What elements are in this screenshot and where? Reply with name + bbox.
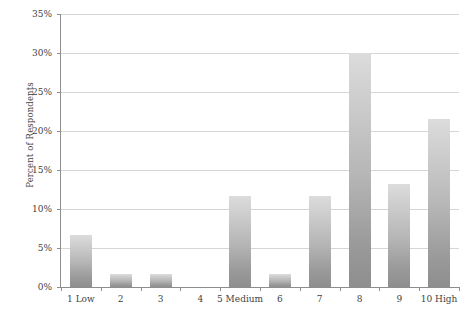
x-axis: 1 Low2345 Medium678910 High <box>61 287 459 323</box>
x-axis-tick <box>459 287 460 291</box>
y-axis-label: 35% <box>0 9 52 19</box>
bar <box>229 196 251 287</box>
bar-chart: Percent of Respondents 0%5%10%15%20%25%3… <box>0 0 466 323</box>
y-axis-label: 20% <box>0 126 52 136</box>
x-axis-label: 10 High <box>394 294 466 304</box>
x-axis-tick <box>340 287 341 291</box>
y-axis-label: 0% <box>0 282 52 292</box>
bar <box>349 53 371 287</box>
bar <box>388 184 410 287</box>
bar <box>150 274 172 287</box>
bars-group <box>61 14 459 287</box>
y-axis-label: 30% <box>0 48 52 58</box>
x-axis-tick <box>101 287 102 291</box>
y-axis-label: 5% <box>0 243 52 253</box>
x-axis-tick <box>220 287 221 291</box>
y-axis-label: 25% <box>0 87 52 97</box>
x-axis-tick <box>260 287 261 291</box>
bar <box>110 274 132 287</box>
x-axis-tick <box>141 287 142 291</box>
y-axis-label: 15% <box>0 165 52 175</box>
bar <box>70 235 92 287</box>
y-axis-label: 10% <box>0 204 52 214</box>
bar <box>428 119 450 287</box>
x-axis-tick <box>379 287 380 291</box>
bar <box>309 196 331 287</box>
x-axis-tick <box>61 287 62 291</box>
x-axis-tick <box>419 287 420 291</box>
plot-area: 0%5%10%15%20%25%30%35% <box>61 14 459 287</box>
x-axis-tick <box>180 287 181 291</box>
bar <box>269 274 291 287</box>
x-axis-tick <box>300 287 301 291</box>
